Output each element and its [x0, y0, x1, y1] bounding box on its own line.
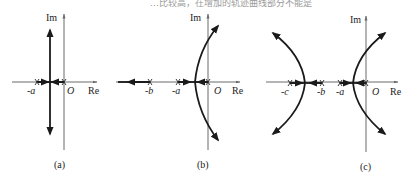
pole-label-c: -c: [281, 86, 289, 97]
root-locus-figure: …比较高，在增加的轨迹曲线部分不能是 Im Re O -a (a) Im Re …: [0, 0, 412, 182]
panel-b: Im Re O -b -a (b): [116, 12, 244, 171]
header-fragment: …比较高，在增加的轨迹曲线部分不能是: [150, 0, 312, 8]
imag-axis-label: Im: [46, 12, 57, 23]
imag-axis-label: Im: [190, 12, 201, 23]
pole-label-a: -a: [336, 86, 344, 97]
origin-label: O: [372, 86, 379, 97]
panel-a: Im Re O -a (a): [12, 12, 100, 171]
caption-c: (c): [360, 161, 371, 173]
real-axis-label: Re: [88, 85, 100, 96]
pole-label-b: -b: [317, 86, 325, 97]
origin-label: O: [67, 85, 74, 96]
origin-label: O: [214, 85, 221, 96]
imag-axis-label: Im: [350, 14, 361, 25]
locus-branch-right-down: [353, 83, 385, 134]
pole-label-a: -a: [172, 85, 180, 96]
real-axis-label: Re: [390, 86, 402, 97]
locus-branch-left-down: [273, 83, 305, 134]
caption-b: (b): [197, 159, 209, 171]
locus-branch-up: [195, 26, 218, 82]
real-axis-label: Re: [232, 85, 244, 96]
pole-label-a: -a: [27, 85, 35, 96]
caption-a: (a): [54, 159, 65, 171]
locus-branch-left-up: [273, 33, 305, 83]
locus-branch-right-up: [353, 33, 385, 83]
panel-c: Im Re O -c -b -a (c): [266, 14, 402, 173]
pole-label-b: -b: [145, 85, 153, 96]
